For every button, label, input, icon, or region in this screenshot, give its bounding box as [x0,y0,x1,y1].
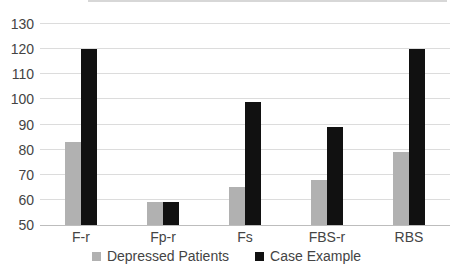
bar-f-r-depressed-patients [65,142,81,225]
bar-fp-r-case-example [163,202,179,225]
plot-area [40,24,450,226]
bar-fbs-r-case-example [327,127,343,225]
bar-rbs-depressed-patients [393,152,409,225]
legend-label-depressed-patients: Depressed Patients [107,248,229,264]
y-tick-label-110: 110 [0,66,34,82]
bar-fs-depressed-patients [229,187,245,225]
y-tick-label-100: 100 [0,91,34,107]
bar-chart-figure: 5060708090100110120130 F-rFp-rFsFBS-rRBS… [0,0,453,277]
bar-fs-case-example [245,102,261,225]
y-tick-label-80: 80 [0,142,34,158]
y-tick-label-90: 90 [0,117,34,133]
top-crop-artifact-line [88,0,447,2]
gridline-100 [40,98,450,99]
bar-f-r-case-example [81,49,97,225]
bar-fbs-r-depressed-patients [311,180,327,225]
x-category-label-fp-r: Fp-r [122,229,204,245]
bar-fp-r-depressed-patients [147,202,163,225]
legend-swatch-depressed-patients [92,252,101,261]
x-category-label-f-r: F-r [40,229,122,245]
x-category-label-fbs-r: FBS-r [286,229,368,245]
gridline-120 [40,48,450,49]
legend-item-depressed-patients: Depressed Patients [92,248,229,264]
y-tick-label-120: 120 [0,41,34,57]
legend-label-case-example: Case Example [270,248,361,264]
chart-legend: Depressed PatientsCase Example [0,248,453,264]
y-tick-label-130: 130 [0,16,34,32]
x-category-label-rbs: RBS [368,229,450,245]
legend-swatch-case-example [255,252,264,261]
y-tick-label-60: 60 [0,192,34,208]
y-tick-label-70: 70 [0,167,34,183]
gridline-110 [40,73,450,74]
gridline-130 [40,23,450,24]
y-tick-label-50: 50 [0,217,34,233]
bar-rbs-case-example [409,49,425,225]
x-category-label-fs: Fs [204,229,286,245]
legend-item-case-example: Case Example [255,248,361,264]
